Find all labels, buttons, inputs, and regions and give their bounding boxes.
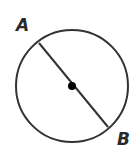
center-point [68, 82, 76, 90]
label-point-a: A [14, 15, 29, 35]
label-point-b: B [117, 129, 130, 149]
circle-diameter-diagram: A B [0, 0, 135, 149]
